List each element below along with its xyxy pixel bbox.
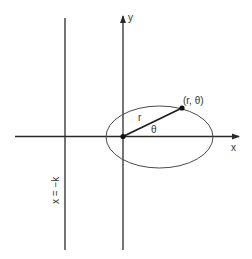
origin-point bbox=[120, 134, 125, 139]
point-label: (r, θ) bbox=[183, 95, 204, 106]
polar-conic-diagram: y x (r, θ) r θ x = −k bbox=[0, 0, 252, 259]
directrix-label: x = −k bbox=[50, 176, 61, 204]
polar-point bbox=[179, 105, 184, 110]
y-axis-label: y bbox=[128, 12, 133, 23]
radius-label: r bbox=[138, 112, 142, 123]
x-axis-label: x bbox=[231, 142, 236, 153]
angle-label: θ bbox=[151, 124, 157, 135]
